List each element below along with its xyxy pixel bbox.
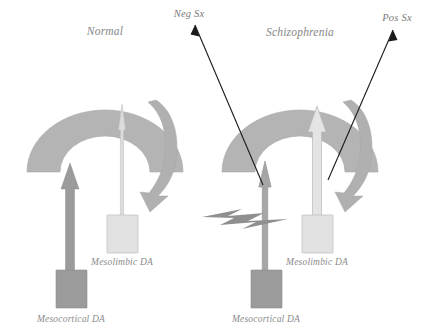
mesocortical-box-normal: [56, 270, 87, 308]
lightning-bolt-blockade: [202, 209, 288, 229]
mesocortical-label-schizophrenia: Mesocortical DA: [231, 314, 300, 324]
neg-sx-label: Neg Sx: [173, 8, 205, 19]
mesocortical-arrow-normal: [61, 163, 79, 275]
panel-title-normal: Normal: [86, 25, 123, 37]
cortex-arc-normal: [27, 110, 183, 172]
diagram-canvas: Normal Mesocortical DA Mesolimbic DA: [0, 0, 428, 335]
mesolimbic-arrow-normal: [118, 104, 125, 218]
mesolimbic-label-schizophrenia: Mesolimbic DA: [285, 257, 348, 267]
mesocortical-label-normal: Mesocortical DA: [36, 314, 105, 324]
mesocortical-box-schizophrenia: [251, 270, 282, 308]
dopamine-pathway-diagram: Normal Mesocortical DA Mesolimbic DA: [0, 0, 428, 335]
mesolimbic-label-normal: Mesolimbic DA: [90, 257, 153, 267]
mesolimbic-box-normal: [107, 215, 138, 253]
panel-schizophrenia: Schizophrenia Mesocortical DA Me: [202, 26, 378, 324]
pos-sx-arrowhead: [389, 30, 398, 42]
neg-sx-arrowhead: [191, 25, 200, 37]
panel-title-schizophrenia: Schizophrenia: [266, 26, 334, 39]
panel-normal: Normal Mesocortical DA Mesolimbic DA: [27, 25, 183, 324]
mesolimbic-box-schizophrenia: [302, 215, 333, 253]
pos-sx-label: Pos Sx: [381, 12, 412, 23]
mesocortical-arrow-schizophrenia: [259, 161, 271, 275]
